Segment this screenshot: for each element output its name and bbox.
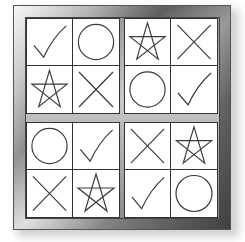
- metal-frame: [13, 5, 231, 230]
- cross-icon: [33, 176, 66, 210]
- grid-cell-cross: [171, 19, 217, 66]
- grid-cell-star: [171, 123, 217, 170]
- grid-cell-star: [27, 66, 73, 113]
- check-icon: [178, 73, 211, 105]
- grid-cell-star: [125, 19, 171, 66]
- quadrant-bottom-left: [26, 122, 120, 218]
- cross-icon: [79, 72, 113, 107]
- grid-cell-cross: [73, 66, 119, 113]
- cross-icon: [177, 25, 210, 59]
- star-icon: [176, 127, 211, 163]
- quadrant-bottom-right: [124, 122, 218, 218]
- grid-cell-circle: [125, 66, 171, 113]
- circle-icon: [32, 128, 67, 163]
- grid-cell-circle: [171, 170, 217, 217]
- grid-cell-circle: [73, 19, 119, 66]
- cross-icon: [131, 129, 164, 163]
- circle-icon: [176, 176, 212, 212]
- grid-cell-check: [27, 19, 73, 66]
- check-icon: [132, 177, 164, 208]
- grid-cell-check: [125, 170, 171, 217]
- grid-cell-circle: [27, 123, 73, 170]
- quadrant-top-left: [26, 18, 120, 114]
- grid-cell-star: [73, 170, 119, 217]
- star-icon: [78, 174, 114, 211]
- star-icon: [130, 23, 165, 59]
- circle-icon: [130, 72, 165, 107]
- grid-cell-check: [73, 123, 119, 170]
- quadrant-top-right: [124, 18, 218, 114]
- grid-cell-cross: [125, 123, 171, 170]
- grid-cell-cross: [27, 170, 73, 217]
- star-icon: [32, 70, 67, 106]
- check-icon: [80, 130, 112, 161]
- check-icon: [34, 26, 66, 57]
- grid-cell-check: [171, 66, 217, 113]
- circle-icon: [78, 24, 113, 59]
- symbol-grid: [25, 17, 220, 219]
